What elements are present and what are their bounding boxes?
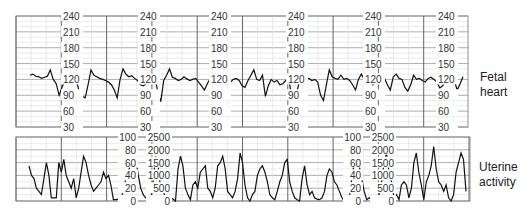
svg-text:120: 120 <box>438 74 455 85</box>
svg-text:0: 0 <box>355 196 361 207</box>
svg-text:20: 20 <box>350 183 362 194</box>
svg-text:20: 20 <box>125 183 137 194</box>
fetal-heart-axis-labels: 2402101801501209060302402101801501209060… <box>61 10 458 133</box>
svg-text:2000: 2000 <box>148 145 171 156</box>
svg-text:120: 120 <box>140 74 157 85</box>
svg-text:180: 180 <box>438 43 455 54</box>
svg-text:240: 240 <box>438 11 455 22</box>
svg-text:210: 210 <box>288 27 305 38</box>
svg-text:120: 120 <box>288 74 305 85</box>
svg-text:180: 180 <box>211 43 228 54</box>
svg-text:90: 90 <box>63 90 75 101</box>
svg-text:0: 0 <box>130 196 136 207</box>
svg-text:150: 150 <box>365 59 382 70</box>
svg-text:100: 100 <box>119 132 136 143</box>
svg-text:150: 150 <box>211 59 228 70</box>
svg-text:2000: 2000 <box>372 145 395 156</box>
svg-text:80: 80 <box>125 145 137 156</box>
fetal-heart-grid <box>16 16 468 127</box>
svg-text:180: 180 <box>140 43 157 54</box>
svg-text:60: 60 <box>438 106 450 117</box>
fetal-heart-label: Fetal heart <box>480 70 532 100</box>
svg-text:0: 0 <box>388 196 394 207</box>
svg-text:90: 90 <box>438 90 450 101</box>
svg-text:40: 40 <box>350 170 362 181</box>
svg-text:30: 30 <box>211 122 223 133</box>
svg-text:210: 210 <box>365 27 382 38</box>
ctg-chart: 2402101801501209060302402101801501209060… <box>0 0 532 218</box>
fetal-heart-trace <box>30 69 463 102</box>
svg-text:90: 90 <box>140 90 152 101</box>
svg-text:0: 0 <box>164 196 170 207</box>
svg-text:1000: 1000 <box>372 170 395 181</box>
svg-text:240: 240 <box>140 11 157 22</box>
svg-text:40: 40 <box>125 170 137 181</box>
svg-text:500: 500 <box>153 183 170 194</box>
svg-text:1000: 1000 <box>148 170 171 181</box>
svg-text:2500: 2500 <box>148 132 171 143</box>
svg-text:100: 100 <box>344 132 361 143</box>
uterine-activity-trace <box>29 147 466 201</box>
svg-text:180: 180 <box>288 43 305 54</box>
uterine-label-line1: Uterine <box>479 160 518 175</box>
svg-text:240: 240 <box>288 11 305 22</box>
uterine-activity-label: Uterine activity <box>479 160 518 190</box>
svg-text:90: 90 <box>288 90 300 101</box>
svg-text:60: 60 <box>125 158 137 169</box>
svg-text:90: 90 <box>211 90 223 101</box>
svg-text:210: 210 <box>438 27 455 38</box>
svg-text:180: 180 <box>63 43 80 54</box>
uterine-label-line2: activity <box>479 175 518 190</box>
svg-text:500: 500 <box>377 183 394 194</box>
svg-text:30: 30 <box>438 122 450 133</box>
svg-text:210: 210 <box>140 27 157 38</box>
svg-text:150: 150 <box>63 59 80 70</box>
svg-text:150: 150 <box>140 59 157 70</box>
svg-text:30: 30 <box>63 122 75 133</box>
svg-text:210: 210 <box>211 27 228 38</box>
svg-text:240: 240 <box>365 11 382 22</box>
svg-text:60: 60 <box>140 106 152 117</box>
svg-text:60: 60 <box>288 106 300 117</box>
svg-text:60: 60 <box>63 106 75 117</box>
svg-text:1500: 1500 <box>148 158 171 169</box>
svg-text:30: 30 <box>288 122 300 133</box>
svg-text:240: 240 <box>211 11 228 22</box>
svg-text:90: 90 <box>365 90 377 101</box>
svg-text:80: 80 <box>350 145 362 156</box>
svg-text:150: 150 <box>288 59 305 70</box>
svg-text:60: 60 <box>365 106 377 117</box>
svg-text:210: 210 <box>63 27 80 38</box>
svg-text:240: 240 <box>63 11 80 22</box>
svg-text:2500: 2500 <box>372 132 395 143</box>
svg-text:60: 60 <box>211 106 223 117</box>
svg-text:150: 150 <box>438 59 455 70</box>
svg-text:180: 180 <box>365 43 382 54</box>
svg-text:120: 120 <box>211 74 228 85</box>
svg-text:60: 60 <box>350 158 362 169</box>
svg-text:120: 120 <box>63 74 80 85</box>
svg-text:120: 120 <box>365 74 382 85</box>
svg-text:1500: 1500 <box>372 158 395 169</box>
